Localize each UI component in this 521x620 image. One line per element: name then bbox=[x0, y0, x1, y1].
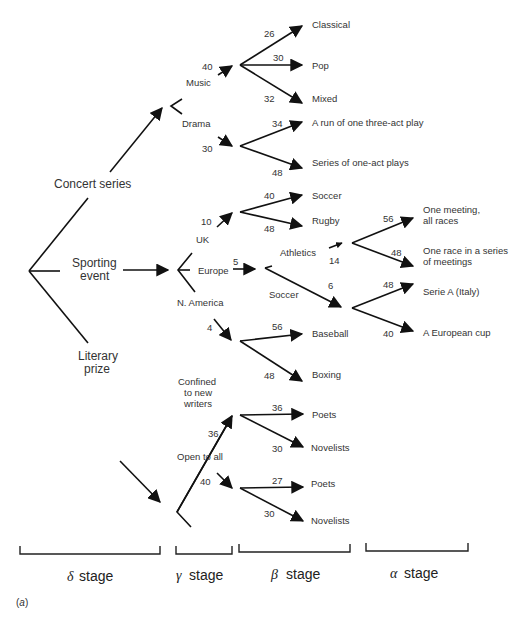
option-literary-prize-line1: Literary bbox=[78, 349, 118, 363]
bracket-delta bbox=[20, 546, 160, 554]
option-music: Music bbox=[186, 77, 211, 88]
arrow-n-america bbox=[214, 319, 231, 340]
outcome-new-poets: Poets bbox=[312, 409, 337, 420]
svg-text:stage: stage bbox=[286, 566, 320, 582]
bracket-beta bbox=[239, 544, 350, 552]
outcome-one-meeting-line1: One meeting, bbox=[423, 204, 480, 215]
value-confined: 36 bbox=[208, 428, 219, 439]
bracket-gamma bbox=[176, 546, 232, 554]
stage-label-gamma: γ stage bbox=[176, 567, 223, 583]
value-mixed: 32 bbox=[264, 93, 275, 104]
value-music: 40 bbox=[202, 61, 213, 72]
svg-text:stage: stage bbox=[79, 568, 113, 584]
outcome-classical: Classical bbox=[312, 19, 350, 30]
option-sporting-event-line2: event bbox=[80, 269, 110, 283]
value-n-america: 4 bbox=[207, 322, 212, 333]
arrow-one-race bbox=[352, 243, 413, 266]
fork-eligibility bbox=[177, 416, 232, 527]
arrow-one-act bbox=[240, 146, 302, 168]
svg-text:δ: δ bbox=[67, 569, 74, 584]
arrow-three-act bbox=[240, 122, 302, 146]
outcome-baseball: Baseball bbox=[312, 328, 348, 339]
arrow-baseball bbox=[240, 334, 302, 341]
option-drama: Drama bbox=[182, 118, 211, 129]
outcome-european-cup: A European cup bbox=[423, 327, 491, 338]
value-uk: 10 bbox=[201, 216, 212, 227]
outcome-open-novelists: Novelists bbox=[311, 515, 350, 526]
outcome-uk-soccer: Soccer bbox=[312, 190, 342, 201]
outcome-rugby: Rugby bbox=[312, 215, 340, 226]
outcome-new-novelists: Novelists bbox=[311, 442, 350, 453]
outcome-three-act-play: A run of one three-act play bbox=[312, 117, 424, 128]
arrow-open-to-all bbox=[217, 473, 232, 488]
value-open-to-all: 40 bbox=[200, 476, 211, 487]
figure-caption: (a) bbox=[16, 597, 28, 608]
arrow-concert bbox=[110, 108, 162, 172]
arrow-literary bbox=[120, 461, 160, 502]
value-athletics: 14 bbox=[329, 255, 340, 266]
value-three-act: 34 bbox=[272, 118, 283, 129]
option-concert-series: Concert series bbox=[54, 177, 131, 191]
option-europe: Europe bbox=[198, 265, 229, 276]
option-n-america: N. America bbox=[177, 297, 224, 308]
stage-label-alpha: α stage bbox=[390, 565, 438, 581]
outcome-pop: Pop bbox=[312, 60, 329, 71]
arrow-uk bbox=[217, 213, 232, 227]
value-eu-soccer: 6 bbox=[328, 280, 333, 291]
arrow-drama bbox=[218, 137, 232, 146]
outcome-mixed: Mixed bbox=[312, 93, 337, 104]
arrow-music bbox=[218, 66, 232, 75]
svg-text:stage: stage bbox=[404, 565, 438, 581]
svg-text:stage: stage bbox=[189, 567, 223, 583]
outcome-one-meeting-line2: all races bbox=[423, 215, 459, 226]
value-open-poets: 27 bbox=[272, 475, 283, 486]
value-classical: 26 bbox=[264, 28, 275, 39]
fork-regions bbox=[178, 253, 195, 292]
value-new-novelists: 30 bbox=[272, 443, 283, 454]
value-rugby: 48 bbox=[264, 223, 275, 234]
value-one-meeting: 56 bbox=[383, 213, 394, 224]
value-open-novelists: 30 bbox=[264, 508, 275, 519]
arrow-athletics bbox=[329, 243, 342, 248]
stage-label-beta: β stage bbox=[270, 566, 320, 582]
value-serie-a: 48 bbox=[383, 279, 394, 290]
option-uk: UK bbox=[196, 234, 210, 245]
value-drama: 30 bbox=[202, 143, 213, 154]
decision-tree-diagram: Concert series Sporting event Literary p… bbox=[0, 0, 521, 620]
outcome-boxing: Boxing bbox=[312, 369, 341, 380]
arrow-open-poets bbox=[240, 487, 303, 488]
value-uk-soccer: 40 bbox=[264, 190, 275, 201]
value-europe: 5 bbox=[233, 256, 238, 267]
value-one-race: 48 bbox=[391, 247, 402, 258]
option-confined-line2: to new bbox=[184, 387, 212, 398]
fork-music-drama bbox=[171, 99, 182, 114]
svg-text:γ: γ bbox=[176, 568, 182, 583]
option-sporting-event-line1: Sporting bbox=[72, 256, 117, 270]
option-literary-prize-line2: prize bbox=[84, 362, 110, 376]
value-pop: 30 bbox=[273, 52, 284, 63]
outcome-one-act-plays: Series of one-act plays bbox=[312, 157, 409, 168]
svg-text:β: β bbox=[270, 567, 278, 582]
option-confined-line3: writers bbox=[183, 398, 212, 409]
value-new-poets: 36 bbox=[272, 402, 283, 413]
value-baseball: 56 bbox=[272, 321, 283, 332]
outcome-one-race-line1: One race in a series bbox=[423, 245, 508, 256]
option-confined-line1: Confined bbox=[178, 376, 216, 387]
outcome-one-race-line2: of meetings bbox=[423, 256, 472, 267]
option-eu-soccer: Soccer bbox=[269, 289, 299, 300]
bracket-alpha bbox=[366, 543, 468, 551]
svg-text:α: α bbox=[390, 566, 398, 581]
arrow-new-poets bbox=[240, 414, 303, 415]
value-one-act: 48 bbox=[272, 167, 283, 178]
outcome-serie-a: Serie A (Italy) bbox=[423, 286, 480, 297]
value-european-cup: 40 bbox=[383, 328, 394, 339]
stage-label-delta: δ stage bbox=[67, 568, 113, 584]
outcome-open-poets: Poets bbox=[311, 478, 336, 489]
option-athletics: Athletics bbox=[280, 247, 316, 258]
arrow-confined bbox=[177, 416, 232, 512]
value-boxing: 48 bbox=[264, 370, 275, 381]
option-open-to-all: Open to all bbox=[177, 451, 223, 462]
